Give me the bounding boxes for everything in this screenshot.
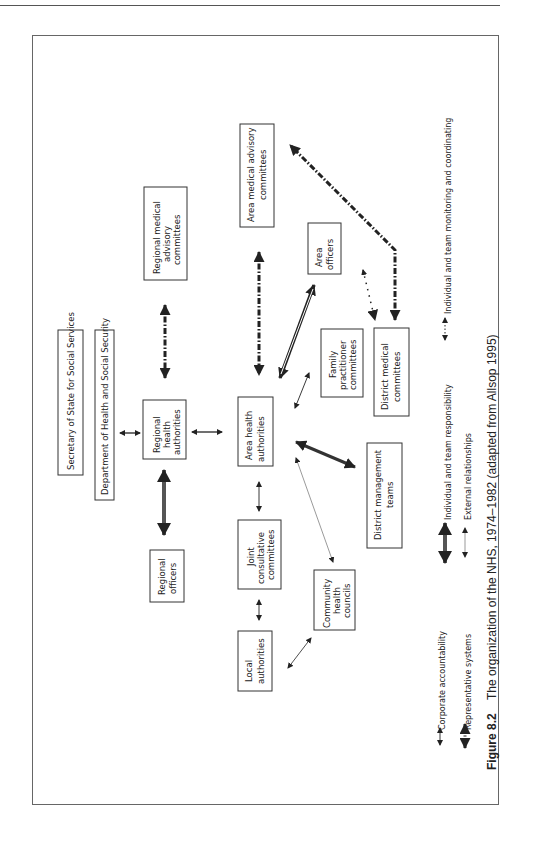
svg-text:authorities: authorities xyxy=(256,416,266,462)
svg-text:authorities: authorities xyxy=(256,638,266,684)
svg-text:District medical: District medical xyxy=(380,343,390,410)
legend: Corporate accountability Representative … xyxy=(438,118,473,748)
svg-text:Regional: Regional xyxy=(152,416,162,453)
node-district-management: District management teams xyxy=(367,443,402,548)
svg-text:officers: officers xyxy=(168,562,178,594)
svg-text:committees: committees xyxy=(172,214,182,265)
nhs-organization-diagram: Secretary of State for Social Services D… xyxy=(0,0,539,844)
legend-external-label: External relationships xyxy=(464,433,473,520)
node-local-authorities: Local authorities xyxy=(238,631,272,691)
arrow-external-la-chc xyxy=(288,638,311,668)
node-secretary-of-state: Secretary of State for Social Services xyxy=(58,312,83,475)
node-family-practitioner: Family practitioner committees xyxy=(321,329,363,397)
svg-text:Family: Family xyxy=(328,351,338,378)
svg-text:Community: Community xyxy=(322,579,332,628)
node-district-medical: District medical committees xyxy=(374,328,409,416)
svg-text:health: health xyxy=(332,587,342,614)
svg-text:consultative: consultative xyxy=(256,532,266,584)
svg-text:officers: officers xyxy=(325,238,335,270)
figure-caption: Figure 8.2 The organization of the NHS, … xyxy=(485,334,499,770)
arrow-external-aha-chc xyxy=(296,458,333,562)
svg-text:District management: District management xyxy=(373,449,383,540)
arrow-individual-aha-dmt xyxy=(296,442,355,467)
node-area-health-authorities: Area health authorities xyxy=(238,397,273,466)
svg-text:authorities: authorities xyxy=(172,409,182,455)
legend-representative-label: Representative systems xyxy=(464,634,473,730)
svg-text:committees: committees xyxy=(348,339,358,390)
svg-text:Area: Area xyxy=(314,247,324,267)
node-community-health-councils: Community health councils xyxy=(314,570,355,630)
svg-text:teams: teams xyxy=(385,481,395,508)
svg-text:Department of Health and Socia: Department of Health and Social Security xyxy=(100,318,110,495)
arrow-monitoring-area-officers-dmc xyxy=(363,270,375,320)
legend-monitoring-label: Individual and team monitoring and coord… xyxy=(444,118,453,314)
svg-text:councils: councils xyxy=(342,583,352,618)
svg-text:advisory: advisory xyxy=(162,226,172,262)
node-regional-health-authorities: Regional health authorities xyxy=(143,400,186,459)
node-dhss: Department of Health and Social Security xyxy=(95,318,114,500)
legend-corporate-label: Corporate accountability xyxy=(438,631,447,730)
arrow-external-aha-fpc xyxy=(295,373,309,408)
node-regional-medical-advisory: Regional medical advisory committees xyxy=(144,187,187,280)
node-regional-officers: Regional officers xyxy=(150,550,184,602)
svg-text:practitioner: practitioner xyxy=(338,340,348,390)
svg-text:health: health xyxy=(162,421,172,448)
node-joint-consultative: Joint consultative committees xyxy=(238,520,281,589)
legend-individual-label: Individual and team responsibility xyxy=(444,384,453,520)
svg-text:Regional: Regional xyxy=(157,558,167,595)
svg-text:Local: Local xyxy=(244,660,254,682)
svg-text:Secretary of State for Social: Secretary of State for Social Services xyxy=(66,312,76,470)
svg-text:committees: committees xyxy=(258,149,268,200)
arrow-representative-amac-dmc xyxy=(290,145,395,320)
svg-text:Regional medical: Regional medical xyxy=(152,201,162,274)
node-area-medical-advisory: Area medical advisory committees xyxy=(240,124,274,227)
figure-number: Figure 8.2 xyxy=(485,713,499,770)
svg-text:Area medical advisory: Area medical advisory xyxy=(246,127,256,222)
figure-caption-text: The organization of the NHS, 1974–1982 (… xyxy=(485,334,499,700)
svg-text:committees: committees xyxy=(392,351,402,402)
node-area-officers: Area officers xyxy=(308,223,341,274)
svg-text:committees: committees xyxy=(266,529,276,580)
svg-text:Joint: Joint xyxy=(246,547,256,567)
svg-text:Area health: Area health xyxy=(244,411,254,460)
